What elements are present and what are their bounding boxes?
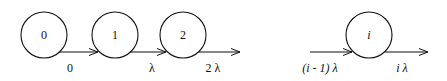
state-0: 0 (21, 12, 67, 58)
rate-label: λ (149, 61, 155, 75)
state-label: 0 (41, 28, 47, 42)
rate-label: 0 (67, 61, 73, 75)
transition-1-2: λ (130, 52, 166, 75)
state-label: i (367, 28, 370, 42)
state-1: 1 (92, 12, 138, 58)
state-label: 2 (180, 28, 186, 42)
transition-0-1: 0 (59, 52, 98, 75)
transition-2-out: 2 λ (199, 52, 240, 75)
state-i: i (346, 12, 392, 58)
transition-in-i: (i - 1) λ (302, 52, 352, 75)
rate-label: (i - 1) λ (302, 61, 338, 75)
rate-label: i λ (396, 61, 408, 75)
state-label: 1 (112, 28, 118, 42)
chain-diagram: 0 1 2 i 0 λ 2 λ (i - 1) λ i λ (0, 0, 447, 81)
rate-label: 2 λ (206, 61, 221, 75)
state-2: 2 (160, 12, 206, 58)
transition-i-out: i λ (385, 52, 428, 75)
